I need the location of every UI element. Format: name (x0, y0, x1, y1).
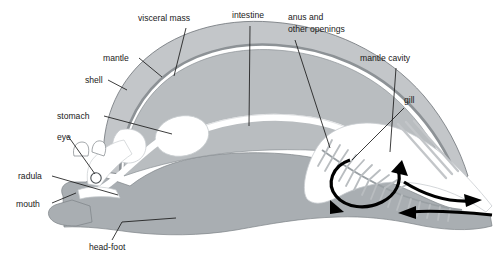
diagram-canvas: visceral mass intestine anus and other o… (0, 0, 497, 256)
label-radula: radula (18, 171, 42, 181)
label-eye: eye (57, 132, 71, 142)
mollusc-anatomy-diagram: visceral mass intestine anus and other o… (0, 0, 497, 256)
label-intestine: intestine (232, 10, 264, 20)
label-anus-line2: other openings (288, 24, 345, 34)
cephalic-tentacle-2 (92, 141, 106, 156)
label-head-foot: head-foot (89, 242, 126, 252)
label-mouth: mouth (16, 199, 40, 209)
label-visceral-mass: visceral mass (138, 13, 190, 23)
label-mantle-cavity: mantle cavity (360, 53, 411, 63)
label-anus-line1: anus and (288, 12, 324, 22)
label-stomach: stomach (57, 111, 90, 121)
label-shell: shell (85, 75, 103, 85)
label-gill: gill (404, 95, 415, 105)
label-mantle: mantle (103, 53, 129, 63)
eye (91, 173, 101, 183)
